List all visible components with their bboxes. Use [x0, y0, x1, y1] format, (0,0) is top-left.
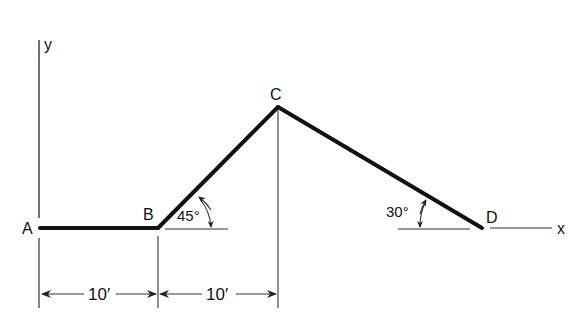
member-BC [158, 107, 278, 228]
x-axis-label: x [557, 220, 565, 237]
frame-members [40, 107, 482, 228]
frame-diagram: y x A B C D 45° 30° 10′ 10′ [0, 0, 584, 331]
point-label-b: B [143, 206, 154, 223]
member-CD [278, 107, 482, 228]
dimension-label-ab: 10′ [88, 285, 110, 304]
point-label-d: D [486, 209, 498, 226]
y-axis-label: y [44, 36, 52, 53]
angle-label-d: 30° [386, 203, 409, 220]
angle-label-b: 45° [177, 207, 200, 224]
point-label-c: C [270, 86, 282, 103]
point-label-a: A [22, 220, 33, 237]
dimension-label-bc: 10′ [206, 285, 228, 304]
